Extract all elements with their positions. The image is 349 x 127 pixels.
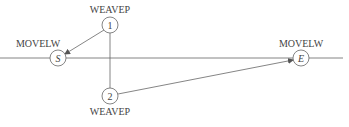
edge-1-to-s [65,30,104,54]
node-1-label: 1 [108,20,113,31]
node-s-label: S [56,53,61,64]
node-e-label: E [297,53,304,64]
node-s: S MOVELW [16,38,66,66]
node-2-label: 2 [108,91,113,102]
node-s-caption: MOVELW [16,38,61,49]
node-2-caption: WEAVEP [90,106,131,117]
node-1: 1 WEAVEP [90,4,131,33]
path-diagram: S MOVELW 1 WEAVEP 2 WEAVEP E MOVELW [0,0,349,127]
edge-2-to-e [118,60,293,94]
node-1-caption: WEAVEP [90,4,131,15]
node-e-caption: MOVELW [279,38,324,49]
